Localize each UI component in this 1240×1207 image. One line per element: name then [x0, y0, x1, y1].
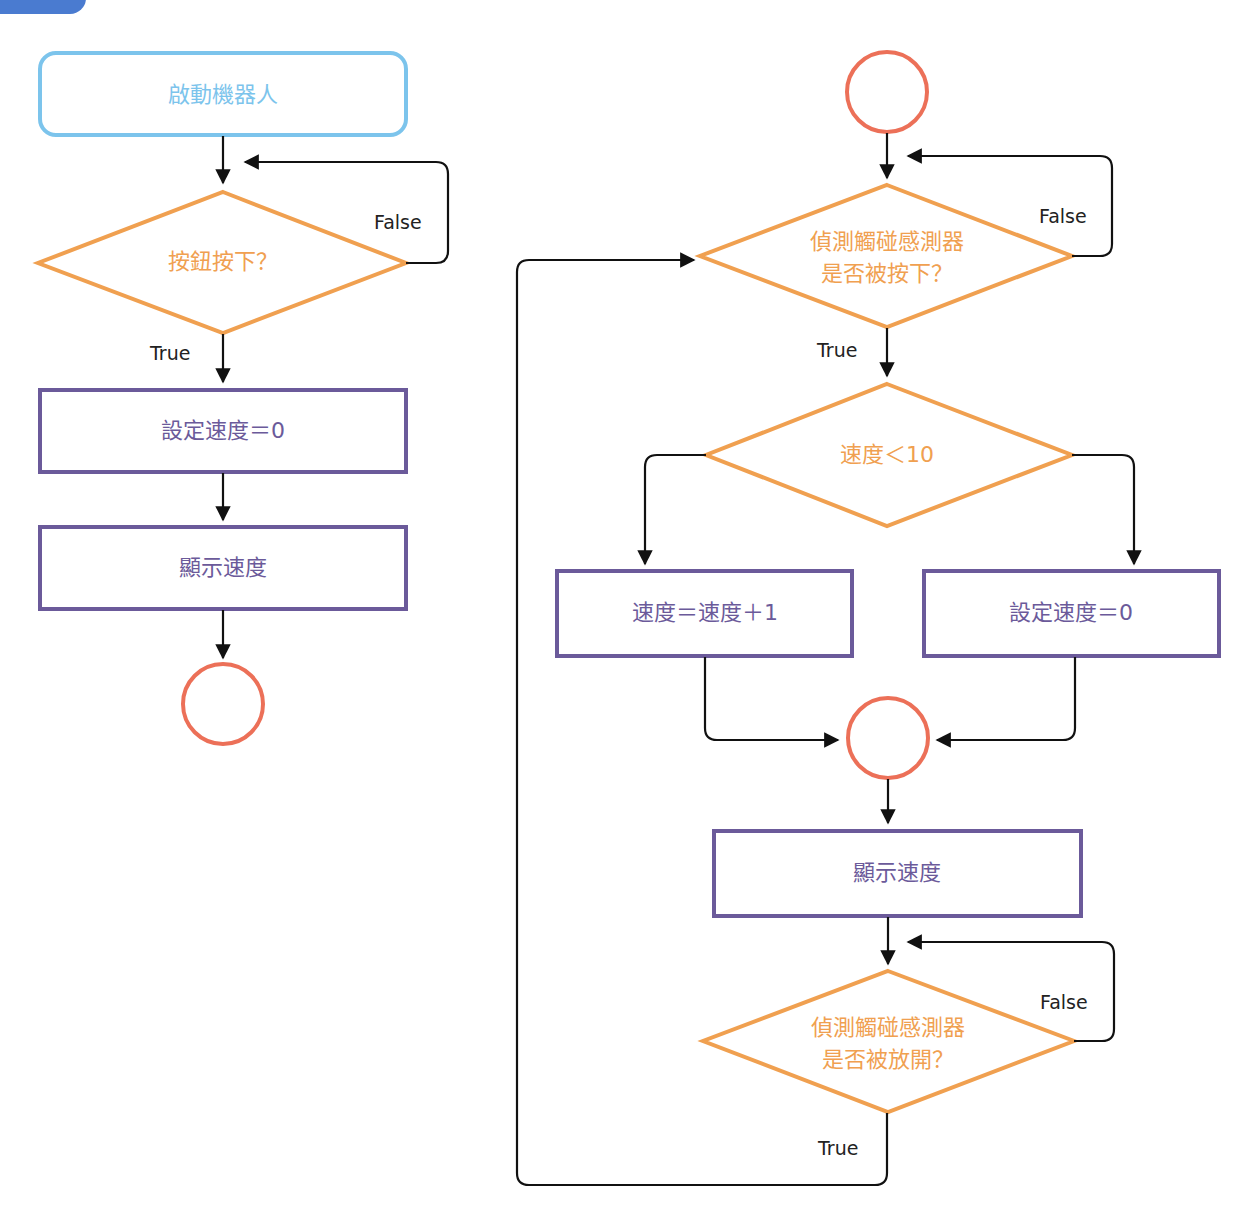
- decision-sensor-pressed-line1: 偵測觸碰感測器: [810, 229, 964, 254]
- arrow-decision2-left: [645, 455, 706, 564]
- process-increment-speed-label: 速度＝速度＋1: [632, 600, 778, 625]
- decision3-false-label: False: [1040, 991, 1088, 1013]
- flowchart-canvas: 啟動機器人 按鈕按下？ False True 設定速度＝0 顯示速度 偵測觸碰感…: [0, 0, 1240, 1207]
- process-reset-speed-label: 設定速度＝0: [1009, 600, 1133, 625]
- right-flow: 偵測觸碰感測器 是否被按下？ False True 速度＜10 速度＝速度＋1 …: [517, 52, 1219, 1185]
- left-flow: 啟動機器人 按鈕按下？ False True 設定速度＝0 顯示速度: [38, 53, 448, 744]
- false-label: False: [374, 211, 422, 233]
- decision1-false-label: False: [1039, 205, 1087, 227]
- arrow-decision2-right: [1072, 455, 1134, 564]
- start-label: 啟動機器人: [168, 82, 278, 107]
- start-connector: [847, 52, 927, 132]
- arrow-right-merge: [937, 657, 1075, 740]
- decision-sensor-released: [703, 971, 1074, 1112]
- decision1-true-label: True: [816, 339, 857, 361]
- decision-sensor-pressed-line2: 是否被按下？: [821, 261, 953, 286]
- process-display-speed-right-label: 顯示速度: [853, 860, 941, 885]
- process-display-speed-label: 顯示速度: [179, 555, 267, 580]
- true-label: True: [149, 342, 190, 364]
- decision-sensor-released-line2: 是否被放開？: [822, 1047, 954, 1072]
- decision3-true-label: True: [817, 1137, 858, 1159]
- decision-button-pressed-label: 按鈕按下？: [168, 249, 278, 274]
- process-set-speed-label: 設定速度＝0: [161, 418, 285, 443]
- decision-sensor-pressed: [700, 185, 1072, 327]
- arrow-left-merge: [705, 657, 838, 740]
- merge-connector: [848, 698, 928, 778]
- decision-speed-less-10-label: 速度＜10: [840, 442, 934, 467]
- decision-sensor-released-line1: 偵測觸碰感測器: [811, 1015, 965, 1040]
- end-connector: [183, 664, 263, 744]
